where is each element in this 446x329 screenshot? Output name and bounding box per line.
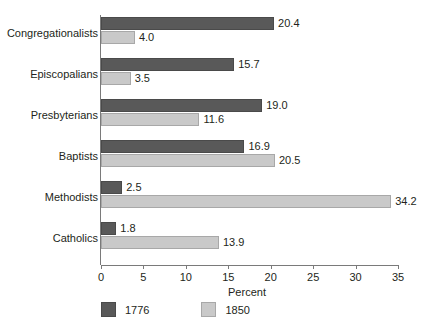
x-tick-label: 25 — [307, 271, 319, 283]
x-axis-title-label: Percent — [228, 286, 266, 298]
legend-entry-1776[interactable]: 1776 — [101, 302, 149, 317]
legend-label-1776: 1776 — [125, 304, 149, 316]
legend-swatch-1776 — [101, 302, 116, 317]
bar-value-label: 2.5 — [126, 181, 141, 194]
bar-1850-catholics — [101, 236, 219, 249]
bar-value-label: 15.7 — [238, 58, 259, 71]
bar-1776-presbyterians — [101, 99, 262, 112]
bar-value-label: 19.0 — [266, 99, 287, 112]
category-group: Baptists16.920.5 — [0, 140, 446, 181]
bar-value-label: 11.6 — [203, 113, 224, 126]
x-tick-label: 20 — [265, 271, 277, 283]
bar-1776-catholics — [101, 222, 116, 235]
category-label-episcopalians: Episcopalians — [0, 68, 98, 80]
category-group: Episcopalians15.73.5 — [0, 58, 446, 99]
x-tick-label: 15 — [222, 271, 234, 283]
bar-value-label: 4.0 — [139, 31, 154, 44]
legend-swatch-1850 — [201, 302, 216, 317]
bar-chart: Congregationalists20.44.0Episcopalians15… — [0, 0, 446, 329]
category-label-congregationalists: Congregationalists — [0, 27, 98, 39]
x-tick-label: 35 — [392, 271, 404, 283]
category-group: Congregationalists20.44.0 — [0, 17, 446, 58]
bar-1850-methodists — [101, 195, 391, 208]
bar-1850-congregationalists — [101, 31, 135, 44]
x-axis-line — [101, 265, 398, 266]
x-tick-label: 0 — [98, 271, 104, 283]
x-tick-mark — [356, 265, 357, 269]
category-group: Presbyterians19.011.6 — [0, 99, 446, 140]
bar-value-label: 16.9 — [248, 140, 269, 153]
bar-1776-methodists — [101, 181, 122, 194]
bar-1776-baptists — [101, 140, 244, 153]
category-group: Methodists2.534.2 — [0, 181, 446, 222]
bar-1776-congregationalists — [101, 17, 274, 30]
bar-value-label: 34.2 — [395, 195, 416, 208]
legend-entry-1850[interactable]: 1850 — [201, 302, 249, 317]
bar-1776-episcopalians — [101, 58, 234, 71]
x-axis-title: Percent — [0, 286, 446, 298]
x-tick-mark — [143, 265, 144, 269]
bar-value-label: 13.9 — [223, 236, 244, 249]
category-label-catholics: Catholics — [0, 232, 98, 244]
chart-legend: 17761850 — [101, 302, 302, 317]
x-tick-label: 30 — [349, 271, 361, 283]
x-tick-mark — [313, 265, 314, 269]
bar-value-label: 1.8 — [120, 222, 135, 235]
legend-label-1850: 1850 — [225, 304, 249, 316]
bar-value-label: 3.5 — [135, 72, 150, 85]
x-tick-label: 5 — [140, 271, 146, 283]
category-label-presbyterians: Presbyterians — [0, 109, 98, 121]
x-tick-mark — [271, 265, 272, 269]
x-tick-mark — [186, 265, 187, 269]
x-tick-mark — [228, 265, 229, 269]
x-tick-label: 10 — [180, 271, 192, 283]
category-label-baptists: Baptists — [0, 150, 98, 162]
bar-1850-baptists — [101, 154, 275, 167]
bar-1850-episcopalians — [101, 72, 131, 85]
x-tick-mark — [101, 265, 102, 269]
category-label-methodists: Methodists — [0, 191, 98, 203]
category-group: Catholics1.813.9 — [0, 222, 446, 263]
bar-1850-presbyterians — [101, 113, 199, 126]
bar-value-label: 20.5 — [279, 154, 300, 167]
bar-value-label: 20.4 — [278, 17, 299, 30]
x-tick-mark — [398, 265, 399, 269]
